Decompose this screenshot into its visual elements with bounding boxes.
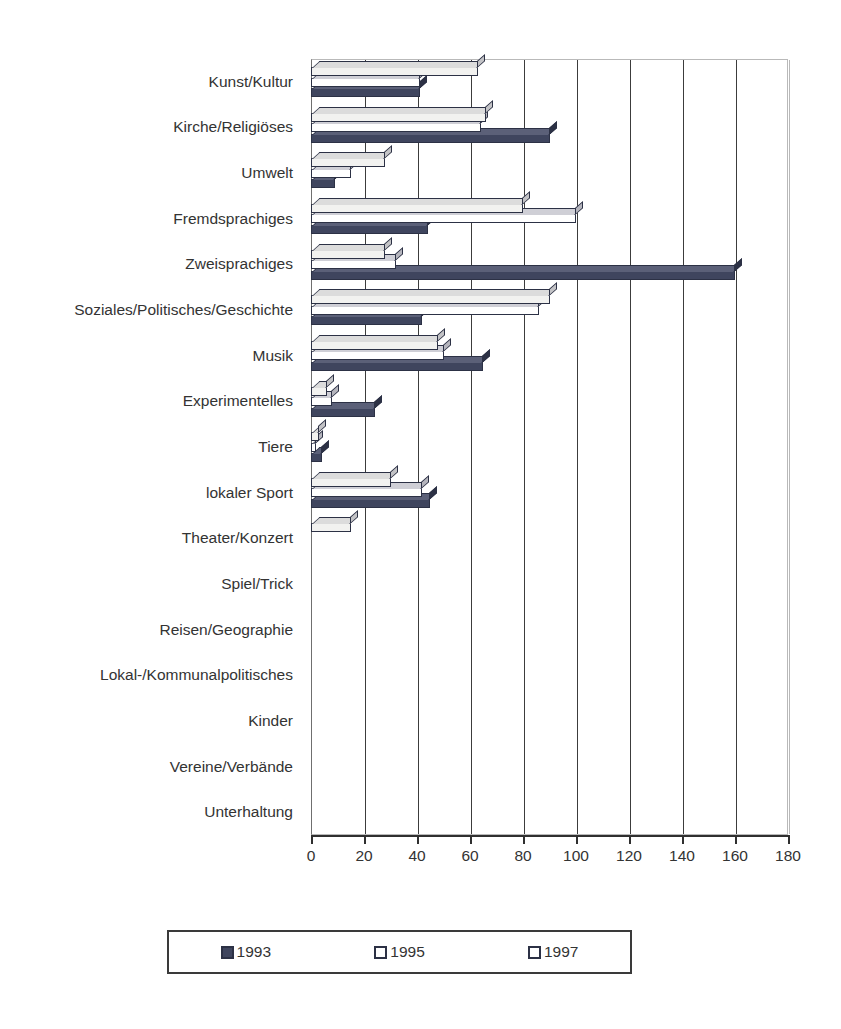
x-tick-120	[629, 835, 631, 844]
horizontal-bar-chart: Kunst/KulturKirche/ReligiösesUmweltFremd…	[0, 0, 841, 1029]
x-tick-40	[417, 835, 419, 844]
category-label: Lokal-/Kommunalpolitisches	[100, 667, 293, 683]
x-tick-80	[523, 835, 525, 844]
x-tick-label: 180	[775, 847, 801, 865]
gridline-140	[683, 60, 684, 834]
gridline-40	[418, 60, 419, 834]
category-label: Kunst/Kultur	[209, 74, 293, 90]
category-label: lokaler Sport	[206, 485, 293, 501]
category-label: Fremdsprachiges	[173, 211, 293, 227]
x-tick-180	[788, 835, 790, 844]
category-label: Unterhaltung	[204, 804, 293, 820]
category-label: Theater/Konzert	[182, 531, 293, 547]
gridline-120	[630, 60, 631, 834]
gridline-80	[524, 60, 525, 834]
x-tick-label: 100	[563, 847, 589, 865]
x-tick-label: 60	[461, 847, 478, 865]
category-label: Kinder	[248, 713, 293, 729]
category-label: Vereine/Verbände	[170, 759, 293, 775]
x-axis-line	[311, 835, 788, 837]
gridline-20	[365, 60, 366, 834]
x-tick-label: 80	[514, 847, 531, 865]
legend-item-1993[interactable]: 1993	[169, 943, 323, 961]
category-label: Soziales/Politisches/Geschichte	[74, 302, 293, 318]
x-tick-label: 40	[408, 847, 425, 865]
category-label: Kirche/Religiöses	[173, 120, 293, 136]
x-tick-label: 140	[669, 847, 695, 865]
category-label: Umwelt	[241, 165, 293, 181]
legend-items: 199319951997	[169, 932, 630, 972]
empty-square-icon	[528, 946, 541, 959]
x-axis: 020406080100120140160180	[311, 835, 788, 885]
legend-item-1997[interactable]: 1997	[476, 943, 630, 961]
x-tick-label: 20	[355, 847, 372, 865]
category-label: Experimentelles	[183, 394, 293, 410]
gridline-180	[789, 60, 790, 834]
category-label: Tiere	[258, 439, 293, 455]
plot-area	[311, 59, 788, 835]
category-label: Zweisprachiges	[185, 257, 293, 273]
legend-label: 1995	[390, 943, 424, 961]
gridline-60	[471, 60, 472, 834]
category-label: Spiel/Trick	[221, 576, 293, 592]
filled-dark-square-icon	[221, 946, 234, 959]
legend-label: 1997	[544, 943, 578, 961]
x-tick-100	[576, 835, 578, 844]
gridline-100	[577, 60, 578, 834]
legend-item-1995[interactable]: 1995	[323, 943, 477, 961]
x-tick-label: 0	[307, 847, 316, 865]
x-tick-label: 160	[722, 847, 748, 865]
x-tick-60	[470, 835, 472, 844]
x-tick-140	[682, 835, 684, 844]
x-tick-160	[735, 835, 737, 844]
x-tick-20	[364, 835, 366, 844]
legend-label: 1993	[237, 943, 271, 961]
empty-square-icon	[374, 946, 387, 959]
x-tick-label: 120	[616, 847, 642, 865]
category-label: Reisen/Geographie	[159, 622, 293, 638]
category-axis-labels: Kunst/KulturKirche/ReligiösesUmweltFremd…	[0, 59, 303, 835]
gridline-160	[736, 60, 737, 834]
x-tick-0	[311, 835, 313, 844]
chart-legend: 199319951997	[167, 930, 632, 974]
category-label: Musik	[253, 348, 293, 364]
